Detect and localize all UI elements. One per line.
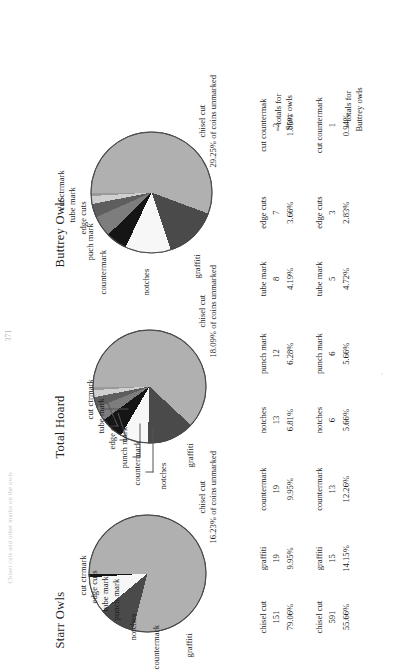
slice-label-total-notches: notches	[157, 462, 167, 489]
table-cell: notches	[312, 394, 325, 446]
table-cell: 6	[325, 394, 338, 446]
table-cell: 15	[325, 532, 338, 585]
table-row-gap	[296, 69, 312, 649]
table-cell: 6.81%	[283, 394, 296, 446]
annotation-buttrey-line2: 29.25% of coins unmarked	[207, 74, 218, 167]
table-cell: 8	[269, 244, 282, 313]
leader-line-total-countermark	[152, 428, 153, 472]
leader-tick-total-countermark	[145, 471, 153, 472]
annotation-starr: chisel cut 16.23% of coins unmarked	[196, 450, 217, 543]
annotation-total-line2: 18.09% of coins unmarked	[207, 264, 218, 357]
table-row: 591 15 13 6 6 5 3 1	[325, 69, 338, 649]
table-cell: 13	[269, 394, 282, 446]
totals-note-buttrey-line1: = totals for	[342, 87, 353, 131]
table-cell: 5.66%	[339, 313, 352, 394]
slice-label-starr-graffiti: graffiti	[183, 632, 193, 657]
totals-note-starr-line2: Starr owls	[283, 93, 294, 131]
marks-data-table: chisel cut graffiti countermark notches …	[256, 69, 352, 649]
table-cell: 19	[269, 446, 282, 532]
figure-stage: Chisel cuts and other marks on the owls …	[0, 0, 413, 671]
table-cell: 151	[269, 584, 282, 649]
table-row: 55.66% 14.15% 12.26% 5.66% 5.66% 4.72% 2…	[339, 69, 352, 649]
table-cell: graffiti	[256, 532, 269, 585]
table-cell: 13	[325, 446, 338, 532]
table-cell: 55.66%	[339, 584, 352, 649]
table-cell: chisel cut	[312, 584, 325, 649]
slice-label-starr-notches: notches	[127, 613, 137, 640]
table-cell: 6.28%	[283, 313, 296, 394]
table-cell: 2.83%	[339, 180, 352, 244]
pie-slices-starr	[88, 514, 206, 632]
slice-label-starr-punch-mark: punch mark	[110, 578, 120, 620]
table-cell: 9.95%	[283, 446, 296, 532]
slice-label-buttrey-countermark: countermark	[97, 249, 107, 294]
annotation-buttrey-line1: chisel cut	[196, 74, 207, 167]
table-cell: countermark	[312, 446, 325, 532]
slice-label-total-edge-cuts: edge cuts	[106, 416, 116, 449]
table-row: 79.06% 9.95% 9.95% 6.81% 6.28% 4.19% 3.6…	[283, 69, 296, 649]
slice-label-starr-countermark: countermark	[150, 624, 160, 669]
table-cell: notches	[256, 394, 269, 446]
table-cell: 9.95%	[283, 532, 296, 585]
table-cell: edge cuts	[312, 180, 325, 244]
annotation-starr-line2: 16.23% of coins unmarked	[207, 450, 218, 543]
pie-chart-buttrey	[90, 131, 212, 253]
slice-label-starr-edge-cuts: edge cuts	[88, 570, 98, 603]
table-cell: 4.72%	[339, 244, 352, 313]
panel-title-total: Total Hoard	[52, 395, 67, 458]
page-folio: 371	[3, 329, 12, 341]
table-cell: 19	[269, 532, 282, 585]
table-cell: punch mark	[256, 313, 269, 394]
table-cell: tube mark	[256, 244, 269, 313]
table-cell: 5	[325, 244, 338, 313]
table-cell: 7	[269, 180, 282, 244]
slice-label-starr-tube-mark: tube mark	[99, 575, 109, 611]
slice-label-total-cut-ctrmark: cut ctrmark	[84, 379, 94, 419]
table-cell: cut countermak	[256, 69, 269, 180]
table-cell: 591	[325, 584, 338, 649]
table-cell: 14.15%	[339, 532, 352, 585]
slice-label-total-tube-mark: tube mark	[95, 397, 105, 433]
totals-note-buttrey-line2: Buttrey owls	[353, 87, 364, 131]
table-row: chisel cut graffiti countermark notches …	[312, 69, 325, 649]
table-cell: tube mark	[312, 244, 325, 313]
table-cell: 5.66%	[339, 394, 352, 446]
panel-title-starr: Starr Owls	[52, 591, 67, 648]
scan-speck	[381, 373, 382, 374]
table-row: chisel cut graffiti countermark notches …	[256, 69, 269, 649]
annotation-buttrey: chisel cut 29.25% of coins unmarked	[196, 74, 217, 167]
table-cell: 6	[325, 313, 338, 394]
slice-label-buttrey-notches: notches	[140, 268, 150, 295]
totals-note-buttrey: = totals for Buttrey owls	[342, 87, 364, 131]
table-cell: punch mark	[312, 313, 325, 394]
slice-label-buttrey-edge-cuts: edge cuts	[77, 201, 87, 234]
running-head: Chisel cuts and other marks on the owls	[5, 471, 12, 583]
annotation-starr-line1: chisel cut	[196, 450, 207, 543]
table-cell: countermark	[256, 446, 269, 532]
table-cell: edge cuts	[256, 180, 269, 244]
slice-label-buttrey-graffiti: graffiti	[191, 253, 201, 278]
totals-note-starr: = totals for Starr owls	[272, 93, 294, 131]
table-cell: chisel cut	[256, 584, 269, 649]
slice-label-buttrey-tube-mark: tube mark	[66, 186, 76, 222]
table-cell: 3.66%	[283, 180, 296, 244]
slice-label-total-punch-mark: punch mark	[118, 426, 128, 468]
table-cell: graffiti	[312, 532, 325, 585]
table-cell: 12	[269, 313, 282, 394]
slice-label-buttrey-cut-ctrmark: cut ctrmark	[55, 170, 65, 210]
table-cell: 3	[325, 180, 338, 244]
table-cell: cut countermark	[312, 69, 325, 180]
table-row	[296, 69, 312, 649]
table-cell: 4.19%	[283, 244, 296, 313]
totals-note-starr-line1: = totals for	[272, 93, 283, 131]
pie-chart-starr	[88, 514, 206, 632]
pie-slices-buttrey	[90, 131, 212, 253]
slice-label-total-countermark: countermark	[131, 440, 141, 485]
slice-label-starr-cut-ctrmark: cut ctrmark	[77, 555, 87, 595]
table-row: 151 19 19 13 12 8 7 2	[269, 69, 282, 649]
table-cell: 79.06%	[283, 584, 296, 649]
slice-label-total-graffiti: graffiti	[184, 442, 194, 467]
table-cell: 12.26%	[339, 446, 352, 532]
table-cell: 1	[325, 69, 338, 180]
